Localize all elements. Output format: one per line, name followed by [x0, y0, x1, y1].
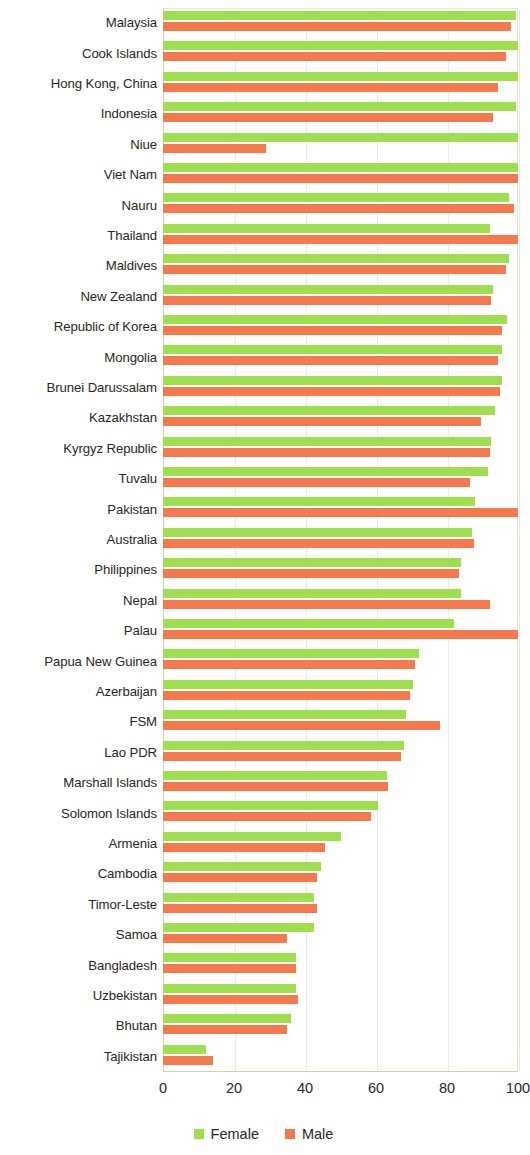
- bar-group: [163, 677, 518, 707]
- bar-male: [163, 812, 371, 821]
- legend-swatch-icon: [194, 1129, 204, 1139]
- bar-group: [163, 69, 518, 99]
- y-axis-label: Malaysia: [0, 16, 157, 30]
- bar-female: [163, 254, 509, 263]
- y-axis-label: Tuvalu: [0, 472, 157, 486]
- bar-group: [163, 464, 518, 494]
- bar-female: [163, 619, 454, 628]
- bar-female: [163, 923, 314, 932]
- bar-group: [163, 920, 518, 950]
- y-axis-label: Armenia: [0, 837, 157, 851]
- bar-group: [163, 130, 518, 160]
- bar-male: [163, 417, 481, 426]
- y-axis-label: Viet Nam: [0, 168, 157, 182]
- bar-group: [163, 798, 518, 828]
- bar-female: [163, 133, 518, 142]
- bar-male: [163, 752, 401, 761]
- bar-female: [163, 984, 296, 993]
- y-axis-label: Tajikistan: [0, 1050, 157, 1064]
- y-axis-label: Timor-Leste: [0, 898, 157, 912]
- bar-male: [163, 83, 498, 92]
- y-axis-label: Republic of Korea: [0, 320, 157, 334]
- bar-female: [163, 41, 518, 50]
- y-axis-label: Solomon Islands: [0, 807, 157, 821]
- bar-male: [163, 873, 317, 882]
- y-axis-label: Niue: [0, 138, 157, 152]
- bar-male: [163, 843, 325, 852]
- bar-female: [163, 862, 321, 871]
- bar-group: [163, 981, 518, 1011]
- y-axis-label: Hong Kong, China: [0, 77, 157, 91]
- bar-female: [163, 589, 461, 598]
- bar-female: [163, 710, 406, 719]
- bar-male: [163, 782, 388, 791]
- bar-group: [163, 707, 518, 737]
- bar-group: [163, 494, 518, 524]
- x-axis-tick: 80: [439, 1080, 455, 1096]
- bar-group: [163, 1042, 518, 1072]
- bar-male: [163, 1025, 287, 1034]
- bar-male: [163, 448, 490, 457]
- bar-group: [163, 555, 518, 585]
- bar-group: [163, 646, 518, 676]
- bar-female: [163, 741, 404, 750]
- bar-group: [163, 312, 518, 342]
- bar-male: [163, 934, 287, 943]
- y-axis-category-labels: MalaysiaCook IslandsHong Kong, ChinaIndo…: [0, 8, 157, 1072]
- bar-male: [163, 265, 506, 274]
- bar-group: [163, 38, 518, 68]
- bar-male: [163, 508, 518, 517]
- y-axis-label: Nepal: [0, 594, 157, 608]
- bar-female: [163, 801, 378, 810]
- x-axis-tick-labels: 020406080100: [163, 1080, 518, 1102]
- y-axis-label: Marshall Islands: [0, 776, 157, 790]
- y-axis-label: Bhutan: [0, 1019, 157, 1033]
- bar-female: [163, 497, 475, 506]
- bar-female: [163, 345, 502, 354]
- bar-male: [163, 964, 296, 973]
- bar-group: [163, 160, 518, 190]
- gridline: [519, 9, 520, 1071]
- bar-female: [163, 467, 488, 476]
- bar-female: [163, 376, 502, 385]
- bar-female: [163, 437, 491, 446]
- bar-female: [163, 528, 472, 537]
- bar-group: [163, 829, 518, 859]
- bar-rows: [163, 8, 518, 1072]
- bar-female: [163, 72, 518, 81]
- bar-female: [163, 193, 509, 202]
- bar-group: [163, 373, 518, 403]
- bar-group: [163, 768, 518, 798]
- y-axis-label: Kyrgyz Republic: [0, 442, 157, 456]
- y-axis-label: Nauru: [0, 199, 157, 213]
- bar-male: [163, 204, 514, 213]
- y-axis-label: Cambodia: [0, 867, 157, 881]
- legend-item[interactable]: Female: [194, 1126, 259, 1142]
- y-axis-label: Lao PDR: [0, 746, 157, 760]
- bar-female: [163, 893, 314, 902]
- bar-group: [163, 525, 518, 555]
- legend-item[interactable]: Male: [285, 1126, 333, 1142]
- bar-group: [163, 403, 518, 433]
- y-axis-label: Mongolia: [0, 351, 157, 365]
- x-axis-tick: 40: [297, 1080, 313, 1096]
- y-axis-label: Pakistan: [0, 503, 157, 517]
- bar-group: [163, 738, 518, 768]
- bar-male: [163, 721, 440, 730]
- x-axis-tick: 0: [159, 1080, 167, 1096]
- bar-group: [163, 8, 518, 38]
- y-axis-label: Brunei Darussalam: [0, 381, 157, 395]
- bar-female: [163, 285, 493, 294]
- y-axis-label: Palau: [0, 624, 157, 638]
- bar-male: [163, 387, 500, 396]
- bar-female: [163, 832, 341, 841]
- bar-male: [163, 1056, 213, 1065]
- bar-male: [163, 144, 266, 153]
- y-axis-label: Azerbaijan: [0, 685, 157, 699]
- chart-legend: FemaleMale: [0, 1126, 527, 1142]
- bar-group: [163, 950, 518, 980]
- bar-male: [163, 235, 518, 244]
- bar-male: [163, 691, 410, 700]
- x-axis-tick: 20: [226, 1080, 242, 1096]
- bar-male: [163, 296, 491, 305]
